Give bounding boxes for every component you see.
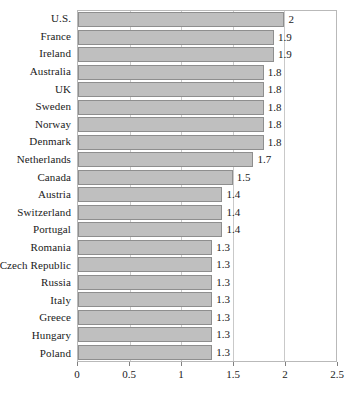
- bar-row[interactable]: 1.7: [78, 151, 336, 169]
- category-label-row: Greece: [0, 309, 76, 327]
- bar-value-label: 1.7: [257, 154, 271, 165]
- category-label-row: Norway: [0, 116, 76, 134]
- x-axis-tick: [285, 362, 286, 366]
- x-axis-tick: [337, 362, 338, 366]
- bar[interactable]: [78, 292, 212, 307]
- bar-value-label: 1.3: [216, 347, 230, 358]
- x-axis-tick-label: 2.5: [330, 369, 344, 380]
- bar[interactable]: [78, 82, 264, 97]
- x-axis-tick-label: 2: [282, 369, 288, 380]
- bar-row[interactable]: 1.8: [78, 134, 336, 152]
- bar-row[interactable]: 1.3: [78, 291, 336, 309]
- category-label: Austria: [38, 189, 71, 200]
- bar-row[interactable]: 1.3: [78, 309, 336, 327]
- x-axis-tick-label: 1.5: [226, 369, 240, 380]
- bar-value-label: 1.8: [268, 119, 282, 130]
- category-label: UK: [55, 84, 71, 95]
- bar-row[interactable]: 1.9: [78, 29, 336, 47]
- bar[interactable]: [78, 240, 212, 255]
- bar-value-label: 1.4: [226, 189, 240, 200]
- bar-row[interactable]: 1.8: [78, 81, 336, 99]
- bar-row[interactable]: 2: [78, 11, 336, 29]
- category-label: U.S.: [51, 13, 71, 24]
- category-label: Denmark: [29, 136, 71, 147]
- category-label-row: Russia: [0, 274, 76, 292]
- category-label: Poland: [40, 348, 71, 359]
- x-axis: 00.511.522.5: [77, 362, 337, 392]
- bar[interactable]: [78, 345, 212, 360]
- x-axis-tick: [181, 362, 182, 366]
- bar-row[interactable]: 1.4: [78, 186, 336, 204]
- category-label-row: Poland: [0, 344, 76, 362]
- category-label-row: Austria: [0, 186, 76, 204]
- bar-value-label: 1.3: [216, 294, 230, 305]
- bar[interactable]: [78, 12, 284, 27]
- bar-chart: U.S.FranceIrelandAustraliaUKSwedenNorway…: [0, 0, 350, 399]
- bar-row[interactable]: 1.3: [78, 274, 336, 292]
- category-label-row: France: [0, 28, 76, 46]
- bar-value-label: 1.5: [237, 172, 251, 183]
- category-label-row: Czech Republic: [0, 256, 76, 274]
- category-label-row: Switzerland: [0, 204, 76, 222]
- bar[interactable]: [78, 205, 222, 220]
- x-axis-tick: [129, 362, 130, 366]
- bar[interactable]: [78, 47, 274, 62]
- category-label: Ireland: [39, 48, 71, 59]
- category-label: Canada: [37, 172, 71, 183]
- bar-row[interactable]: 1.5: [78, 169, 336, 187]
- x-axis-tick-label: 1: [178, 369, 184, 380]
- bars-container: 21.91.91.81.81.81.81.81.71.51.41.41.41.3…: [78, 11, 336, 361]
- bar-row[interactable]: 1.3: [78, 326, 336, 344]
- category-axis-labels: U.S.FranceIrelandAustraliaUKSwedenNorway…: [0, 10, 76, 362]
- category-label-row: Hungary: [0, 327, 76, 345]
- bar-row[interactable]: 1.8: [78, 64, 336, 82]
- bar-value-label: 1.8: [268, 102, 282, 113]
- bar-row[interactable]: 1.4: [78, 221, 336, 239]
- bar-value-label: 1.3: [216, 329, 230, 340]
- category-label-row: Australia: [0, 63, 76, 81]
- bar-value-label: 1.9: [278, 49, 292, 60]
- bar[interactable]: [78, 152, 253, 167]
- x-axis-tick-label: 0.5: [122, 369, 136, 380]
- plot-area: 21.91.91.81.81.81.81.81.71.51.41.41.41.3…: [77, 10, 337, 362]
- bar-row[interactable]: 1.8: [78, 116, 336, 134]
- bar-value-label: 1.4: [226, 224, 240, 235]
- bar[interactable]: [78, 135, 264, 150]
- bar-value-label: 2: [288, 14, 294, 25]
- category-label: Czech Republic: [0, 260, 71, 271]
- category-label: Netherlands: [17, 154, 71, 165]
- x-axis-tick-label: 0: [74, 369, 80, 380]
- bar-value-label: 1.4: [226, 207, 240, 218]
- category-label-row: Denmark: [0, 133, 76, 151]
- category-label-row: Romania: [0, 239, 76, 257]
- bar-row[interactable]: 1.3: [78, 239, 336, 257]
- bar[interactable]: [78, 310, 212, 325]
- bar[interactable]: [78, 187, 222, 202]
- bar[interactable]: [78, 100, 264, 115]
- bar-row[interactable]: 1.8: [78, 99, 336, 117]
- bar[interactable]: [78, 257, 212, 272]
- category-label: Russia: [41, 277, 71, 288]
- bar[interactable]: [78, 30, 274, 45]
- bar-row[interactable]: 1.3: [78, 344, 336, 362]
- bar[interactable]: [78, 222, 222, 237]
- bar[interactable]: [78, 275, 212, 290]
- category-label: Sweden: [36, 101, 71, 112]
- bar-value-label: 1.3: [216, 312, 230, 323]
- bar-row[interactable]: 1.4: [78, 204, 336, 222]
- bar[interactable]: [78, 65, 264, 80]
- bar[interactable]: [78, 117, 264, 132]
- x-axis-tick: [233, 362, 234, 366]
- x-axis-tick: [77, 362, 78, 366]
- category-label-row: Canada: [0, 168, 76, 186]
- category-label: Norway: [35, 119, 71, 130]
- bar[interactable]: [78, 327, 212, 342]
- bar-row[interactable]: 1.9: [78, 46, 336, 64]
- category-label: Hungary: [32, 330, 71, 341]
- bar[interactable]: [78, 170, 233, 185]
- category-label: Italy: [50, 295, 71, 306]
- category-label-row: U.S.: [0, 10, 76, 28]
- category-label-row: UK: [0, 80, 76, 98]
- bar-row[interactable]: 1.3: [78, 256, 336, 274]
- bar-value-label: 1.8: [268, 67, 282, 78]
